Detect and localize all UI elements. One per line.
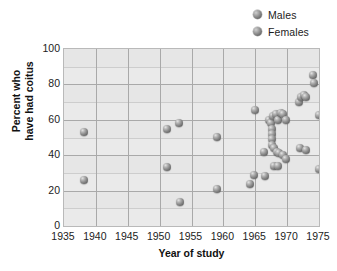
x-tick-label: 1935 — [46, 230, 80, 242]
data-point — [315, 111, 320, 119]
y-tick-label: 0 — [26, 220, 60, 230]
x-tick-label: 1965 — [237, 230, 271, 242]
x-axis-title: Year of study — [63, 247, 320, 259]
gridline-vertical — [160, 49, 161, 226]
data-point — [80, 128, 88, 136]
x-tick-label: 1970 — [269, 230, 303, 242]
scatter-plot-figure: Males Females 020406080100 1935194019451… — [0, 0, 337, 271]
chart-legend: Males Females — [253, 6, 335, 40]
plot-area — [63, 48, 320, 227]
gridline-vertical — [96, 49, 97, 226]
data-point — [274, 162, 282, 170]
data-point — [213, 185, 221, 193]
data-point — [309, 71, 317, 79]
gridline-vertical — [255, 49, 256, 226]
data-point — [246, 180, 254, 188]
x-tick-label: 1950 — [142, 230, 176, 242]
data-point — [260, 148, 268, 156]
data-point — [176, 198, 184, 206]
y-axis-title-line1: Percent who — [10, 26, 23, 176]
y-axis-title: Percent who have had coitus — [10, 26, 36, 176]
sphere-marker-icon — [253, 10, 262, 19]
gridline-vertical — [223, 49, 224, 226]
y-axis-title-line2: have had coitus — [23, 26, 36, 176]
x-tick-label: 1940 — [78, 230, 112, 242]
data-point — [250, 171, 258, 179]
legend-label-males: Males — [268, 9, 297, 21]
sphere-marker-icon — [253, 27, 262, 36]
y-tick-label: 20 — [26, 185, 60, 195]
x-tick-label: 1960 — [205, 230, 239, 242]
gridline-vertical — [287, 49, 288, 226]
x-tick-label: 1945 — [110, 230, 144, 242]
data-point — [315, 165, 320, 173]
gridline-vertical — [128, 49, 129, 226]
data-point — [302, 93, 310, 101]
data-point — [163, 163, 171, 171]
data-point — [310, 79, 318, 87]
data-point — [163, 125, 171, 133]
data-point — [282, 155, 290, 163]
x-tick-label: 1975 — [301, 230, 335, 242]
gridline-vertical — [192, 49, 193, 226]
x-tick-label: 1955 — [174, 230, 208, 242]
legend-item-males: Males — [253, 6, 335, 23]
legend-item-females: Females — [253, 23, 335, 40]
legend-label-females: Females — [268, 26, 309, 38]
data-point — [282, 116, 290, 124]
x-axis-tick-labels: 193519401945195019551960196519701975 — [63, 230, 320, 244]
data-point — [213, 133, 221, 141]
data-point — [175, 119, 183, 127]
